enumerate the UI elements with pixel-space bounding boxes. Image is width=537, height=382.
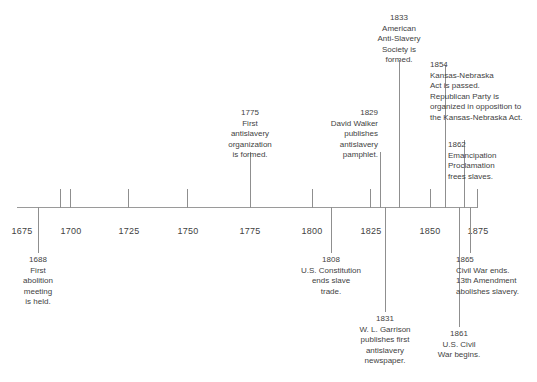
event-callout-1861: 1861 U.S. Civil War begins. [420,329,498,361]
event-callout-1829: 1829 David Walker publishes antislavery … [300,108,378,161]
event-callout-1865: 1865 Civil War ends. 13th Amendment abol… [456,255,537,297]
event-callout-1831: 1831 W. L. Garrison publishes first anti… [337,314,433,367]
event-callout-1862: 1862 Emancipation Proclamation frees sla… [448,140,537,182]
event-stem-1833 [399,60,400,208]
axis-tick-1850 [430,189,431,208]
event-callout-1775: 1775 First antislavery organization is f… [195,108,305,161]
event-stem-1829 [380,152,381,208]
event-callout-1833: 1833 American Anti-Slavery Society is fo… [351,13,447,66]
event-stem-1808 [331,207,332,253]
event-stem-1831 [385,207,386,312]
axis-label-1825: 1825 [361,226,382,236]
axis-tick-1800 [312,189,313,208]
timeline-figure: 1675 1700 1725 1750 1775 1800 1825 1850 … [0,0,537,382]
axis-label-1750: 1750 [178,226,199,236]
axis-label-1800: 1800 [302,226,323,236]
event-stem-1688 [38,207,39,253]
axis-tick-1700 [70,189,71,208]
axis-tick-1675 [60,189,61,208]
axis-label-1700: 1700 [61,226,82,236]
event-stem-1865 [470,207,471,253]
axis-label-1675: 1675 [12,226,33,236]
axis-label-1850: 1850 [420,226,441,236]
axis-tick-1750 [187,189,188,208]
event-callout-1854: 1854 Kansas-Nebraska Act is passed. Repu… [430,60,537,124]
axis-tick-1875 [477,189,478,208]
event-callout-1688: 1688 First abolition meeting is held. [0,255,81,308]
axis-tick-1825 [370,189,371,208]
event-callout-1808: 1808 U.S. Constitution ends slave trade. [283,255,379,297]
axis-label-1725: 1725 [119,226,140,236]
timeline-axis [17,207,477,208]
axis-tick-1725 [128,189,129,208]
axis-label-1775: 1775 [240,226,261,236]
